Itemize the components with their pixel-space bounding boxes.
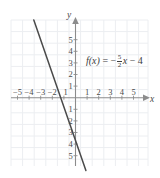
x-tick-label: 3	[108, 87, 112, 97]
slope-fraction: 52	[117, 54, 123, 70]
x-tick-label: −4	[25, 87, 35, 97]
y-tick-label: 1	[68, 104, 72, 114]
y-axis-label: y	[66, 10, 72, 20]
equation-paren-close: )	[97, 55, 100, 66]
x-tick-label: −2	[48, 87, 57, 97]
x-tick-label: 5	[131, 87, 135, 97]
coordinate-plane: −5 −4 −3 −2 1 1 2 3 4 5 5 4 3 2 1 1 2 3 …	[0, 0, 160, 178]
x-axis-label: x	[149, 94, 155, 104]
slope-denominator: 2	[117, 61, 123, 69]
y-tick-label: 5	[68, 35, 72, 45]
x-tick-label: −3	[36, 87, 45, 97]
x-tick-label: 2	[97, 87, 101, 97]
x-tick-labels: −5 −4 −3 −2 1 1 2 3 4 5	[13, 87, 136, 97]
equation-slope-sign: −	[111, 55, 117, 66]
y-tick-label: 1	[68, 81, 72, 91]
equation-intercept: 4	[138, 55, 143, 66]
equation-x-term: x	[123, 55, 127, 66]
equation-annotation: f(x) = −52x − 4	[86, 54, 143, 70]
y-tick-label: 5	[68, 151, 72, 161]
equation-equals: =	[102, 55, 108, 66]
equation-intercept-sign: −	[130, 55, 136, 66]
x-tick-label: 1	[63, 87, 67, 97]
x-tick-label: −5	[13, 87, 22, 97]
x-tick-label: 1	[85, 87, 89, 97]
y-tick-label: 3	[68, 58, 72, 68]
slope-numerator: 5	[117, 54, 123, 61]
graph-figure: −5 −4 −3 −2 1 1 2 3 4 5 5 4 3 2 1 1 2 3 …	[0, 0, 160, 178]
x-tick-label: 4	[120, 87, 125, 97]
y-tick-label: 2	[68, 69, 72, 79]
